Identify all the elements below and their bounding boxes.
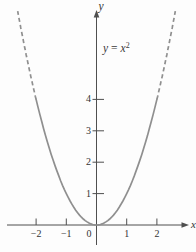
curve-dashed bbox=[18, 11, 36, 99]
x-axis-arrow-icon bbox=[182, 222, 190, 228]
equation-exponent: 2 bbox=[126, 41, 130, 50]
y-tick-label: 2 bbox=[71, 156, 91, 168]
y-tick-label: 3 bbox=[71, 125, 91, 137]
x-tick-label: 2 bbox=[154, 228, 159, 240]
x-tick-label: 1 bbox=[124, 228, 129, 240]
y-tick-label: 4 bbox=[71, 93, 91, 105]
origin-label: 0 bbox=[84, 229, 94, 239]
parabola-figure: y x 0 y=x2 −2−1121234 bbox=[0, 0, 196, 252]
plot-svg bbox=[0, 0, 196, 252]
y-tick-label: 1 bbox=[71, 188, 91, 200]
x-tick-label: −2 bbox=[31, 228, 42, 240]
equation-lhs: y bbox=[103, 42, 108, 54]
curve-dashed bbox=[157, 11, 175, 99]
equation-annotation: y=x2 bbox=[103, 42, 130, 55]
equation-equals-sign: = bbox=[111, 42, 118, 54]
x-tick-label: −1 bbox=[61, 228, 72, 240]
y-axis-label: y bbox=[98, 1, 103, 13]
x-axis-label: x bbox=[191, 219, 196, 230]
